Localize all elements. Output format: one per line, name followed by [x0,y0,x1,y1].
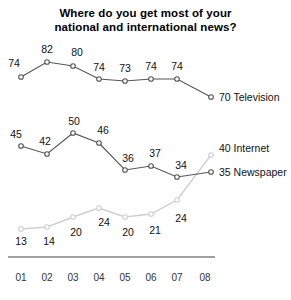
data-label-television: 74 [93,61,105,73]
data-label-internet: 13 [15,235,27,247]
series-newspaper-point [149,164,154,169]
data-label-internet: 24 [98,216,110,228]
series-newspaper-point [71,131,76,136]
data-label-newspaper: 42 [39,135,51,147]
data-label-newspaper: 36 [122,152,134,164]
series-television-point [123,79,128,84]
x-tick-label: 03 [67,272,79,283]
x-tick-label: 05 [119,272,131,283]
data-label-internet: 14 [43,235,55,247]
series-internet-point [19,227,24,232]
series-television-point [175,77,180,82]
series-newspaper-point [123,168,128,173]
end-label-internet: 40 Internet [219,142,269,154]
data-label-internet: 24 [175,212,187,224]
data-label-newspaper: 46 [97,124,109,136]
data-label-television: 74 [145,60,157,72]
x-tick-label: 08 [199,272,211,283]
data-label-television: 74 [8,57,20,69]
series-television-point [71,64,76,69]
x-tick-label: 07 [171,272,183,283]
data-label-internet: 20 [122,226,134,238]
series-internet-point [97,206,102,211]
series-internet-point [209,153,214,158]
series-internet-point [149,212,154,217]
series-internet-point [175,198,180,203]
x-tick-label: 02 [41,272,53,283]
chart-container: Where do you get most of your national a… [0,0,291,300]
end-label-newspaper: 35 Newspaper [219,166,287,178]
line-chart-plot: 74 82 80 74 73 74 74 45 42 50 46 36 37 3… [0,0,291,300]
data-label-internet: 21 [149,224,161,236]
x-tick-label: 04 [93,272,105,283]
data-label-television: 74 [171,60,183,72]
series-newspaper-point [97,141,102,146]
series-internet-point [45,225,50,230]
x-tick-label: 01 [15,272,27,283]
data-label-newspaper: 37 [149,147,161,159]
series-television-point [209,95,214,100]
series-television-point [149,77,154,82]
end-label-television: 70 Television [219,91,280,103]
series-television-point [19,75,24,80]
series-television-point [97,77,102,82]
data-label-newspaper: 45 [10,128,22,140]
data-label-television: 82 [41,43,53,55]
series-internet-point [71,215,76,220]
data-label-television: 73 [119,62,131,74]
series-newspaper-point [209,170,214,175]
series-newspaper-point [19,144,24,149]
data-label-internet: 20 [70,226,82,238]
series-television-point [45,60,50,65]
data-label-newspaper: 50 [68,115,80,127]
series-newspaper-point [175,175,180,180]
series-internet-point [123,215,128,220]
series-newspaper-point [45,152,50,157]
data-label-television: 80 [71,46,83,58]
data-label-newspaper: 34 [175,159,187,171]
series-television [19,60,214,100]
x-tick-label: 06 [145,272,157,283]
